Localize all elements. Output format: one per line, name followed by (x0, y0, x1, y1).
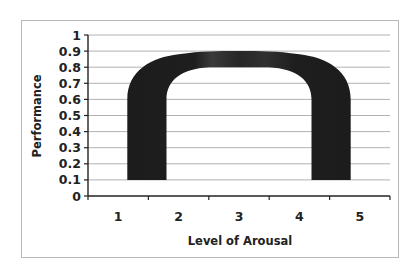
y-tick-label: 0.5 (59, 108, 81, 123)
y-tick-label: 0.7 (59, 76, 81, 91)
x-axis-ticks: 12345 (88, 196, 390, 224)
x-axis-title: Level of Arousal (188, 234, 292, 248)
performance-arousal-chart: 00.10.20.30.40.50.60.70.80.91 12345 Leve… (0, 0, 418, 273)
y-tick-label: 0.2 (59, 156, 81, 171)
y-tick-label: 0.4 (59, 124, 81, 139)
y-axis-ticks: 00.10.20.30.40.50.60.70.80.91 (59, 28, 88, 204)
x-tick-label: 3 (235, 209, 244, 224)
y-tick-label: 0 (72, 189, 81, 204)
y-tick-label: 0.9 (59, 44, 81, 59)
y-tick-label: 1 (72, 28, 81, 43)
y-tick-label: 0.1 (59, 172, 81, 187)
y-tick-label: 0.8 (59, 60, 81, 75)
x-tick-label: 1 (114, 209, 123, 224)
y-tick-label: 0.6 (59, 92, 81, 107)
x-tick-label: 5 (355, 209, 364, 224)
y-axis-title: Performance (30, 74, 44, 157)
y-tick-label: 0.3 (59, 140, 81, 155)
x-tick-label: 4 (295, 209, 304, 224)
x-tick-label: 2 (174, 209, 183, 224)
